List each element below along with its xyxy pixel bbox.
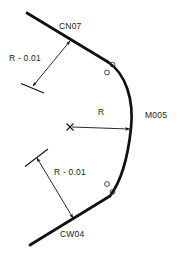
label-m005: M005 <box>145 110 167 120</box>
arc-marker-icon <box>105 182 110 187</box>
profile-outline <box>27 13 132 245</box>
label-radius-minus-upper: R - 0.01 <box>9 53 41 63</box>
arc-marker-icon <box>105 70 110 75</box>
radius-dimension-line <box>72 127 130 129</box>
upper-witness-dash <box>21 84 44 94</box>
upper-offset-leader-line <box>33 41 70 86</box>
arc-marker-group-upper <box>105 62 115 75</box>
label-cw04: CW04 <box>60 229 84 239</box>
label-cn07: CN07 <box>59 21 82 31</box>
technical-drawing-canvas: CN07 CW04 M005 R R - 0.01 R - 0.01 <box>0 0 186 258</box>
lower-witness-dash <box>25 149 48 167</box>
label-radius-minus-lower: R - 0.01 <box>54 167 86 177</box>
label-radius: R <box>98 107 104 117</box>
tangent-arc-diagram-svg <box>0 0 186 258</box>
